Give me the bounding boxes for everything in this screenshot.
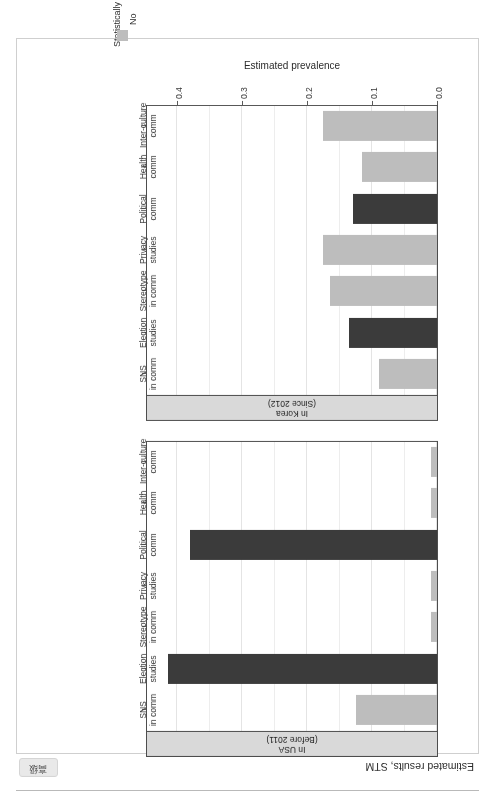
bar [431,447,437,477]
bar [431,571,437,601]
axis-tick-label: 0.1 [369,87,379,99]
axis-tick [307,101,308,105]
gridline-minor [339,442,340,731]
bar [349,318,437,348]
chart-title: Estimated results, STM [365,761,474,773]
bar [330,276,437,306]
category-label: Privacy studies [139,564,159,608]
gridline-minor [209,106,210,395]
gridline [176,106,177,395]
page-tag-badge: 高级 [19,758,58,777]
gridline [306,106,307,395]
axis-tick-label: 0.2 [304,87,314,99]
gridline-minor [209,442,210,731]
category-label: Privacy studies [139,228,159,272]
category-label: Health comm [139,145,159,189]
panel-strip: In USA (Before 2011) [146,731,438,757]
panel-strip: In Korea (Since 2012) [146,395,438,421]
category-label: Election studies [139,647,159,691]
value-axis-title: Estimated prevalence [146,60,438,71]
axis-tick-label: 0.4 [174,87,184,99]
bar [379,359,437,389]
panel-plot-area [146,441,438,731]
category-label: SNS in comm [139,688,159,732]
axis-tick [437,101,438,105]
category-label: Stereotype in comm [139,605,159,649]
legend-label-no: No [128,13,138,25]
panel-plot-area [146,105,438,395]
axis-tick [177,101,178,105]
category-label: Health comm [139,481,159,525]
panel-korea: In Korea (Since 2012) [146,105,438,421]
category-label: Political comm [139,523,159,567]
value-axis: 0.00.10.20.30.4 [86,65,488,105]
gridline [241,106,242,395]
panel-usa: In USA (Before 2011) [146,441,438,757]
axis-tick-label: 0.3 [239,87,249,99]
bar [431,612,437,642]
category-label: Inter-culture comm [139,104,159,148]
bar [323,235,437,265]
chart-figure: Estimated results, STM In USA (Before 20… [41,83,488,787]
bar [323,111,437,141]
gridline [306,442,307,731]
figure-rotated-wrapper: Estimated results, STM In USA (Before 20… [41,83,488,787]
bar [190,530,437,560]
gridline [371,442,372,731]
category-label: SNS in comm [139,352,159,396]
axis-tick-label: 0.0 [434,87,444,99]
slide-card: Estimated results, STM In USA (Before 20… [16,38,479,754]
gridline-minor [274,442,275,731]
gridline-minor [404,442,405,731]
axis-tick [242,101,243,105]
category-label: Stereotype in comm [139,269,159,313]
category-label: Inter-culture comm [139,440,159,484]
bottom-divider [16,790,479,791]
bar [362,152,437,182]
bar [431,488,437,518]
category-label: Political comm [139,187,159,231]
legend: Statistically significant? NoYes [86,0,488,49]
gridline-minor [274,106,275,395]
bar [353,194,437,224]
panel-strip-label: In USA (Before 2011) [266,734,317,754]
slide-page: Estimated results, STM In USA (Before 20… [0,0,495,803]
gridline [241,442,242,731]
gridline [176,442,177,731]
bar [356,695,437,725]
category-label: Election studies [139,311,159,355]
legend-swatch-no [117,30,128,41]
axis-tick [372,101,373,105]
bar [168,654,437,684]
panel-strip-label: In Korea (Since 2012) [268,398,316,418]
